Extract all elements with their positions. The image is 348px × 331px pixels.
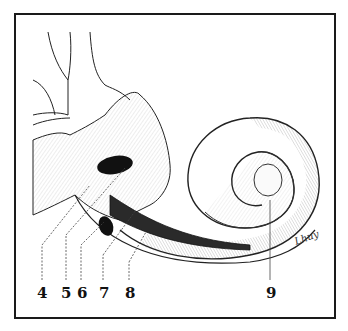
label-4: 4 [37,284,47,302]
cochlea-inner-turn [205,152,294,228]
cochlea-illustration [0,0,348,331]
vestibule [33,92,170,220]
label-7: 7 [99,284,109,302]
label-6: 6 [77,284,87,302]
cochlea-apex [254,164,282,196]
label-5: 5 [61,284,71,302]
label-8: 8 [125,284,135,302]
label-9: 9 [266,284,276,302]
